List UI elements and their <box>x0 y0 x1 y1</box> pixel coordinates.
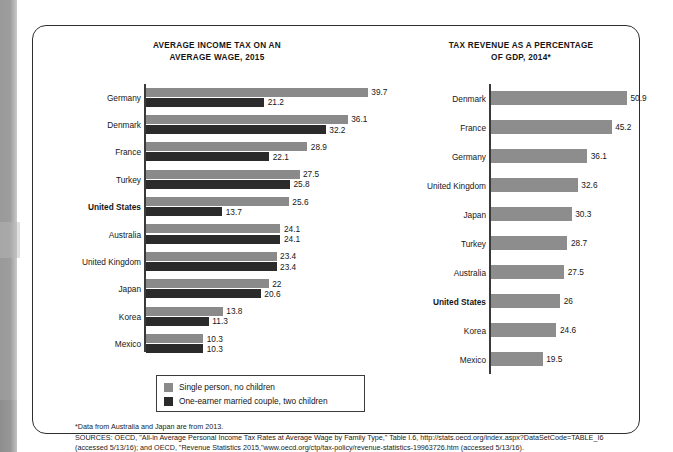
bar-group: 30.3 <box>491 200 572 221</box>
bar-tax-revenue: 45.2 <box>491 120 612 134</box>
bar-value-label: 10.3 <box>203 334 223 344</box>
bar-one-earner-married-couple-two-children: 32.2 <box>146 125 326 134</box>
chart-title-line-2: OF GDP, 2014* <box>401 52 641 64</box>
bar-value-label: 20.6 <box>261 289 281 299</box>
bar-value-label: 11.3 <box>209 316 228 326</box>
bar-group: 28.7 <box>491 229 568 250</box>
legend-item-label: Single person, no children <box>179 382 275 392</box>
bar-group: 50.9 <box>491 84 627 105</box>
bar-row: Japan2220.6 <box>41 276 385 303</box>
bar-tax-revenue: 32.6 <box>491 178 578 192</box>
bar-value-label: 23.4 <box>277 251 297 261</box>
bar-value-label: 36.1 <box>348 114 368 124</box>
category-label-germany: Germany <box>41 93 146 103</box>
category-label-mexico: Mexico <box>401 355 491 365</box>
category-label-korea: Korea <box>401 326 491 336</box>
category-label-united-kingdom: United Kingdom <box>401 181 491 191</box>
bar-tax-revenue: 50.9 <box>491 91 627 105</box>
bar-one-earner-married-couple-two-children: 24.1 <box>146 235 281 244</box>
bar-value-label: 45.2 <box>612 122 632 132</box>
category-label-turkey: Turkey <box>41 175 146 185</box>
figure-card: AVERAGE INCOME TAX ON AN AVERAGE WAGE, 2… <box>32 25 640 434</box>
bar-row: Turkey28.7 <box>401 229 641 258</box>
bar-value-label: 13.8 <box>223 306 243 316</box>
bar-one-earner-married-couple-two-children: 10.3 <box>146 344 204 353</box>
bar-group: 26 <box>491 287 561 308</box>
bar-row: Turkey27.525.8 <box>41 166 385 193</box>
bar-row: United States26 <box>401 287 641 316</box>
bar-row: Mexico19.5 <box>401 345 641 374</box>
bar-tax-revenue: 24.6 <box>491 323 557 337</box>
bar-tax-revenue: 30.3 <box>491 207 572 221</box>
bar-value-label: 23.4 <box>277 262 297 272</box>
bar-row: Korea13.811.3 <box>41 303 385 330</box>
bar-rows-average-income-tax: Germany39.721.2Denmark36.132.2France28.9… <box>41 84 385 358</box>
bar-group: 39.721.2 <box>146 84 368 107</box>
bar-group: 25.613.7 <box>146 194 289 217</box>
bar-value-label: 13.7 <box>222 207 242 217</box>
bar-tax-revenue: 26 <box>491 294 561 308</box>
bar-value-label: 24.1 <box>280 224 300 234</box>
bar-row: Denmark50.9 <box>401 84 641 113</box>
bar-row: United Kingdom32.6 <box>401 171 641 200</box>
bar-value-label: 25.8 <box>290 179 310 189</box>
bar-value-label: 27.5 <box>564 267 584 277</box>
chart-title-average-income-tax: AVERAGE INCOME TAX ON AN AVERAGE WAGE, 2… <box>41 40 393 63</box>
bar-single-person-no-children: 25.6 <box>146 197 289 206</box>
bar-one-earner-married-couple-two-children: 13.7 <box>146 207 223 216</box>
page-edge-artifact <box>0 222 20 258</box>
bar-one-earner-married-couple-two-children: 23.4 <box>146 262 277 271</box>
bar-value-label: 21.2 <box>264 97 284 107</box>
bar-group: 36.132.2 <box>146 111 348 134</box>
bar-value-label: 28.7 <box>567 238 587 248</box>
bar-row: Denmark36.132.2 <box>41 111 385 138</box>
bar-group: 36.1 <box>491 142 588 163</box>
chart-title-line-1: TAX REVENUE AS A PERCENTAGE <box>401 40 641 52</box>
bar-group: 24.6 <box>491 316 557 337</box>
bar-value-label: 22.1 <box>269 152 289 162</box>
category-label-denmark: Denmark <box>401 94 491 104</box>
bar-value-label: 24.1 <box>280 234 300 244</box>
chart-title-tax-revenue-gdp: TAX REVENUE AS A PERCENTAGE OF GDP, 2014… <box>401 40 641 63</box>
bar-group: 28.922.1 <box>146 139 308 162</box>
bar-value-label: 32.2 <box>326 125 346 135</box>
bar-value-label: 27.5 <box>300 169 320 179</box>
plot-area-average-income-tax: Germany39.721.2Denmark36.132.2France28.9… <box>41 84 385 358</box>
bar-group: 45.2 <box>491 113 612 134</box>
category-label-united-kingdom: United Kingdom <box>41 257 146 267</box>
category-label-united-states: United States <box>401 297 491 307</box>
bar-group: 2220.6 <box>146 276 269 299</box>
bar-one-earner-married-couple-two-children: 20.6 <box>146 289 261 298</box>
bar-row: Germany39.721.2 <box>41 84 385 111</box>
bar-value-label: 32.6 <box>578 180 598 190</box>
category-label-germany: Germany <box>401 152 491 162</box>
bar-one-earner-married-couple-two-children: 25.8 <box>146 180 290 189</box>
bar-value-label: 26 <box>560 296 573 306</box>
category-label-united-states: United States <box>41 202 146 212</box>
category-label-france: France <box>401 123 491 133</box>
bar-tax-revenue: 28.7 <box>491 236 568 250</box>
page-background: AVERAGE INCOME TAX ON AN AVERAGE WAGE, 2… <box>0 0 673 452</box>
bar-single-person-no-children: 23.4 <box>146 252 277 261</box>
chart-title-line-2: AVERAGE WAGE, 2015 <box>41 52 393 64</box>
footnote-data-note: *Data from Australia and Japan are from … <box>75 422 663 433</box>
bar-row: United States25.613.7 <box>41 194 385 221</box>
bar-row: Korea24.6 <box>401 316 641 345</box>
bar-row: Germany36.1 <box>401 142 641 171</box>
category-label-denmark: Denmark <box>41 120 146 130</box>
bar-value-label: 10.3 <box>203 344 223 354</box>
bar-value-label: 22 <box>269 279 282 289</box>
bar-tax-revenue: 27.5 <box>491 265 565 279</box>
bar-row: Japan30.3 <box>401 200 641 229</box>
bar-tax-revenue: 36.1 <box>491 149 588 163</box>
bar-row: Australia24.124.1 <box>41 221 385 248</box>
bar-one-earner-married-couple-two-children: 11.3 <box>146 317 209 326</box>
bar-group: 10.310.3 <box>146 331 204 354</box>
bar-value-label: 39.7 <box>368 87 388 97</box>
bar-group: 27.5 <box>491 258 565 279</box>
bar-single-person-no-children: 28.9 <box>146 142 308 151</box>
legend-item: Single person, no children <box>164 380 358 394</box>
bar-row: Mexico10.310.3 <box>41 331 385 358</box>
chart-title-line-1: AVERAGE INCOME TAX ON AN <box>41 40 393 52</box>
bar-value-label: 28.9 <box>307 142 327 152</box>
